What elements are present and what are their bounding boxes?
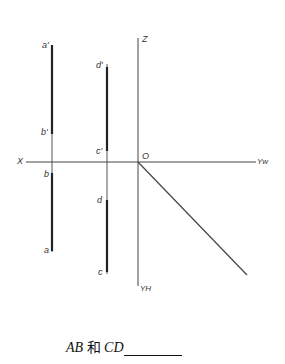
caption-ab: AB [66, 340, 83, 355]
label-origin: O [142, 152, 149, 161]
answer-blank[interactable] [124, 343, 182, 356]
label-x-axis: X [17, 157, 23, 166]
caption-cd: CD [104, 340, 123, 355]
label-yw-axis: Yw [257, 158, 268, 166]
label-b: b [44, 170, 49, 179]
label-d: d [97, 196, 102, 205]
label-a: a [44, 246, 49, 255]
caption-and: 和 [87, 340, 101, 355]
question-caption: AB 和 CD [66, 336, 182, 356]
label-d-prime: d' [96, 61, 103, 70]
diagonal-45-line [138, 162, 247, 275]
label-c-prime: c' [96, 147, 102, 156]
label-a-prime: a' [42, 41, 49, 50]
label-z-axis: Z [142, 35, 148, 44]
label-yh-axis: YH [140, 285, 151, 293]
label-b-prime: b' [41, 128, 48, 137]
projection-diagram [0, 0, 285, 364]
label-c: c [98, 268, 103, 277]
